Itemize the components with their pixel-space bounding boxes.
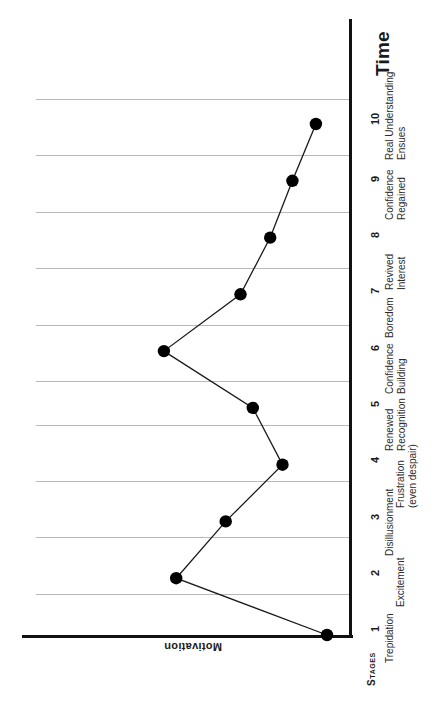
axis-title-time: Time bbox=[372, 31, 394, 76]
tick-label-9: 9 bbox=[369, 176, 381, 182]
stage-label-9-line2: Regained bbox=[396, 169, 408, 220]
data-point-5 bbox=[247, 402, 259, 414]
plot-area bbox=[22, 98, 352, 637]
stage-label-4-line2: (even despair) bbox=[407, 444, 419, 508]
stage-label-10: Real Understanding Ensues bbox=[384, 72, 407, 160]
data-point-3 bbox=[220, 515, 232, 527]
stage-label-9-line1: Confidence bbox=[384, 169, 395, 220]
stage-label-7-line1: Boredom bbox=[384, 297, 395, 338]
series-line bbox=[164, 124, 327, 635]
stage-label-10-line2: Ensues bbox=[396, 72, 408, 160]
tick-label-2: 2 bbox=[369, 570, 381, 576]
tick-label-1: 1 bbox=[369, 626, 381, 632]
tick-label-10: 10 bbox=[369, 113, 381, 125]
stage-label-1-line1: Trepidation bbox=[384, 613, 395, 663]
series-markers bbox=[158, 118, 333, 641]
data-point-1 bbox=[321, 629, 333, 641]
stage-label-5-line2: Recognition bbox=[396, 398, 408, 451]
stage-label-10-line1: Real Understanding bbox=[384, 72, 395, 160]
stage-label-4: Frustration (even despair) bbox=[395, 444, 418, 508]
stage-label-8-line2: Interest bbox=[396, 254, 408, 290]
stage-label-5-line1: Renewed bbox=[384, 409, 395, 451]
stage-label-8-line1: Revived bbox=[384, 254, 395, 290]
stage-label-2-line1: Excitement bbox=[395, 558, 406, 607]
stage-label-6-line1: Confidence bbox=[384, 343, 395, 394]
stages-group-title-text: Stages bbox=[366, 652, 377, 686]
data-point-6 bbox=[158, 345, 170, 357]
stage-label-3-line1: Disillusionment bbox=[384, 489, 395, 556]
stage-label-1: Trepidation bbox=[384, 613, 396, 663]
data-point-2 bbox=[170, 572, 182, 584]
data-point-8 bbox=[264, 231, 276, 243]
stage-label-6-line2: Building bbox=[396, 343, 408, 394]
tick-label-4: 4 bbox=[369, 457, 381, 463]
data-point-10 bbox=[310, 118, 322, 130]
stage-label-9: Confidence Regained bbox=[384, 169, 407, 220]
tick-label-6: 6 bbox=[369, 345, 381, 351]
tick-label-7: 7 bbox=[369, 288, 381, 294]
data-point-4 bbox=[276, 459, 288, 471]
tick-label-8: 8 bbox=[369, 232, 381, 238]
series-motivation bbox=[22, 98, 352, 637]
tick-label-5: 5 bbox=[369, 401, 381, 407]
axis-title-motivation: Motivation bbox=[148, 641, 238, 653]
stage-label-7: Boredom bbox=[384, 297, 396, 338]
data-point-9 bbox=[286, 175, 298, 187]
stage-label-2: Excitement bbox=[395, 558, 407, 607]
stages-group-title: Stages bbox=[366, 652, 377, 686]
data-point-7 bbox=[234, 288, 246, 300]
stage-label-6: Confidence Building bbox=[384, 343, 407, 394]
stage-label-3: Disillusionment bbox=[384, 489, 396, 556]
chart-figure: Time Motivation Stages 10 9 8 7 6 5 4 3 … bbox=[0, 0, 445, 713]
stage-label-4-line1: Frustration bbox=[395, 460, 406, 508]
stage-label-8: Revived Interest bbox=[384, 254, 407, 290]
tick-label-3: 3 bbox=[369, 514, 381, 520]
stage-label-5: Renewed Recognition bbox=[384, 398, 407, 451]
